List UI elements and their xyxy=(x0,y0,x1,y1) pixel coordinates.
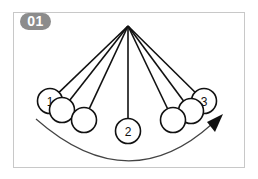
ball-label: 2 xyxy=(125,125,132,139)
pendulum-diagram: 132 xyxy=(0,0,258,179)
pendulum-ball xyxy=(72,108,97,133)
pendulum-ball xyxy=(50,98,75,123)
pendulum-string xyxy=(128,26,168,109)
pendulum-string xyxy=(128,26,184,101)
pendulum-string xyxy=(59,26,128,92)
arrowhead-icon xyxy=(207,114,223,132)
pendulum-ball xyxy=(161,108,186,133)
pendulum-ball: 2 xyxy=(116,119,141,144)
pendulum-balls: 132 xyxy=(38,89,217,144)
pendulum-strings xyxy=(59,26,195,119)
pendulum-string xyxy=(128,26,195,92)
